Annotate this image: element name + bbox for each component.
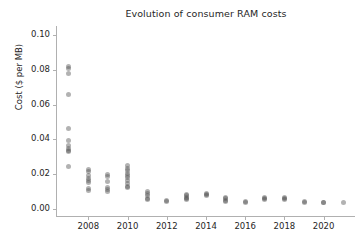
y-tick-label: 0.08	[6, 65, 50, 74]
x-tick-label: 2018	[264, 222, 304, 231]
y-tick-label: 0.04	[6, 134, 50, 143]
scatter-point	[145, 197, 150, 202]
x-tick-label: 2016	[225, 222, 265, 231]
scatter-point	[105, 189, 110, 194]
y-tick-label: 0.00	[6, 204, 50, 213]
x-tick-label: 2014	[186, 222, 226, 231]
scatter-point	[282, 197, 287, 202]
x-tick-mark	[284, 217, 285, 220]
y-tick-label: 0.02	[6, 169, 50, 178]
scatter-point	[223, 199, 228, 204]
y-tick-mark	[53, 209, 56, 210]
scatter-point	[125, 185, 130, 190]
scatter-point	[86, 188, 91, 193]
y-tick-mark	[53, 70, 56, 71]
scatter-point	[86, 180, 91, 185]
scatter-point	[105, 179, 110, 184]
scatter-point	[164, 199, 169, 204]
scatter-point	[243, 200, 248, 205]
scatter-point	[66, 126, 71, 131]
x-tick-mark	[245, 217, 246, 220]
scatter-point	[66, 149, 71, 154]
chart-figure: Evolution of consumer RAM costs Cost ($ …	[0, 0, 362, 247]
chart-title: Evolution of consumer RAM costs	[57, 8, 355, 19]
x-tick-label: 2010	[108, 222, 148, 231]
scatter-point	[321, 200, 326, 205]
x-tick-mark	[128, 217, 129, 220]
scatter-point	[66, 71, 71, 76]
x-tick-label: 2008	[68, 222, 108, 231]
scatter-point	[204, 193, 209, 198]
x-tick-mark	[206, 217, 207, 220]
y-tick-label: 0.06	[6, 100, 50, 109]
x-tick-label: 2020	[304, 222, 344, 231]
scatter-point	[66, 92, 71, 97]
y-tick-mark	[53, 105, 56, 106]
scatter-plot-area	[57, 28, 355, 216]
scatter-point	[341, 200, 346, 205]
x-tick-mark	[324, 217, 325, 220]
y-tick-mark	[53, 174, 56, 175]
x-tick-label: 2012	[147, 222, 187, 231]
scatter-point	[184, 197, 189, 202]
scatter-point	[262, 197, 267, 202]
scatter-point	[66, 164, 71, 169]
x-tick-mark	[167, 217, 168, 220]
x-tick-mark	[88, 217, 89, 220]
y-tick-mark	[53, 139, 56, 140]
y-tick-label: 0.10	[6, 30, 50, 39]
scatter-point	[302, 200, 307, 205]
y-tick-mark	[53, 35, 56, 36]
